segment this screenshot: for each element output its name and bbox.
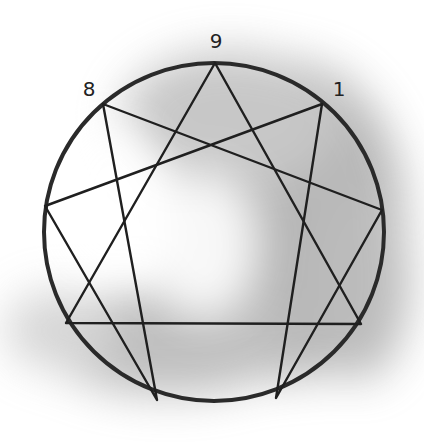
enneagram-diagram: 9 8 1 [0,0,424,447]
label-point-9: 9 [210,29,223,53]
label-point-8: 8 [83,77,96,101]
label-point-1: 1 [333,77,346,101]
